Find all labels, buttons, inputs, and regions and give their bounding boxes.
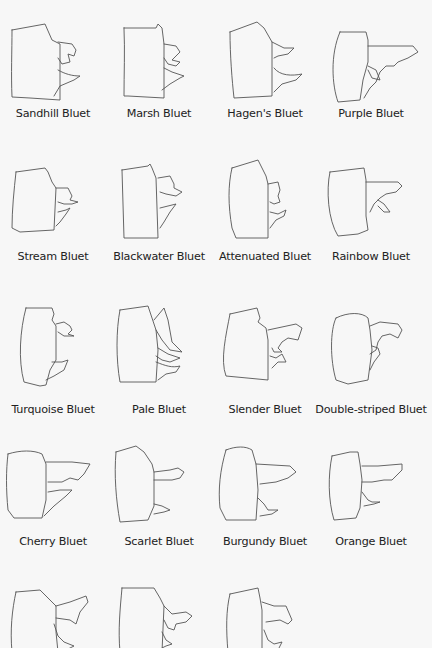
appendage-drawing-icon (212, 130, 318, 240)
specimen-unlabeled-2 (106, 580, 212, 648)
appendage-drawing-icon (0, 580, 106, 648)
species-label: Rainbow Bluet (308, 250, 432, 263)
specimen-attenuated-bluet: Attenuated Bluet (212, 130, 318, 260)
appendage-drawing-icon (106, 130, 212, 230)
specimen-sandhill-bluet: Sandhill Bluet (0, 0, 106, 125)
appendage-drawing-icon (106, 290, 212, 390)
specimen-purple-bluet: Purple Bluet (318, 0, 424, 125)
species-label: Double-striped Bluet (308, 403, 432, 416)
appendage-drawing-icon (318, 0, 424, 100)
appendage-drawing-icon (212, 580, 318, 648)
appendage-drawing-icon (0, 0, 106, 100)
appendage-drawing-icon (106, 580, 212, 648)
appendage-drawing-icon (318, 420, 424, 520)
specimen-turquoise-bluet: Turquoise Bluet (0, 290, 106, 415)
appendage-drawing-icon (318, 290, 424, 390)
specimen-unlabeled-1 (0, 580, 106, 648)
specimen-marsh-bluet: Marsh Bluet (106, 0, 212, 125)
specimen-burgundy-bluet: Burgundy Bluet (212, 420, 318, 545)
specimen-pale-bluet: Pale Bluet (106, 290, 212, 415)
appendage-drawing-icon (318, 130, 424, 240)
specimen-rainbow-bluet: Rainbow Bluet (318, 130, 424, 260)
specimen-blackwater-bluet: Blackwater Bluet (106, 130, 212, 255)
specimen-hagens-bluet: Hagen's Bluet (212, 0, 318, 125)
specimen-cherry-bluet: Cherry Bluet (0, 420, 106, 545)
appendage-drawing-icon (212, 420, 318, 520)
appendage-drawing-icon (212, 0, 318, 100)
species-label: Orange Bluet (308, 535, 432, 548)
species-label: Purple Bluet (308, 107, 432, 120)
specimen-stream-bluet: Stream Bluet (0, 130, 106, 255)
specimen-slender-bluet: Slender Bluet (212, 290, 318, 415)
appendage-drawing-icon (0, 130, 106, 230)
specimen-scarlet-bluet: Scarlet Bluet (106, 420, 212, 545)
specimen-orange-bluet: Orange Bluet (318, 420, 424, 545)
appendage-drawing-icon (106, 420, 212, 520)
appendage-drawing-icon (212, 290, 318, 390)
appendage-drawing-icon (0, 420, 106, 520)
appendage-drawing-icon (0, 290, 106, 390)
specimen-unlabeled-3 (212, 580, 318, 648)
appendage-drawing-icon (106, 0, 212, 100)
specimen-double-striped-bluet: Double-striped Bluet (318, 290, 424, 415)
